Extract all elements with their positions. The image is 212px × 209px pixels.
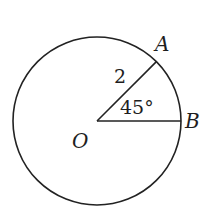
label-o: O bbox=[72, 129, 88, 153]
label-angle: 45° bbox=[120, 96, 154, 118]
diagram: A B O 2 45° bbox=[0, 0, 212, 209]
label-b: B bbox=[184, 109, 200, 133]
label-a: A bbox=[153, 32, 169, 56]
label-radius-length: 2 bbox=[114, 65, 126, 87]
circle-diagram-svg: A B O 2 45° bbox=[0, 0, 212, 209]
